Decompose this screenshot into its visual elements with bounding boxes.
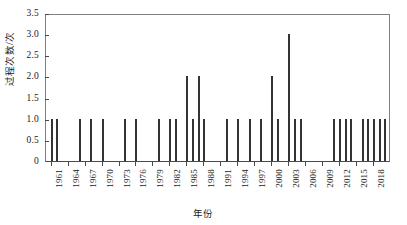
x-tick-label: 2018 [377, 169, 386, 188]
bar [175, 119, 177, 161]
bar [51, 119, 53, 161]
bar [384, 119, 386, 161]
x-axis-title: 年份 [0, 206, 407, 220]
bar [339, 119, 341, 161]
x-tick-mark [237, 162, 238, 166]
x-tick-mark [102, 162, 103, 166]
bar [90, 119, 92, 161]
x-tick-label: 1976 [139, 169, 148, 188]
x-tick-mark [271, 162, 272, 166]
x-tick-mark [220, 162, 221, 166]
plot-area [45, 14, 390, 162]
x-tick-label: 1982 [173, 169, 182, 188]
bar [158, 119, 160, 161]
x-tick-mark [85, 162, 86, 166]
x-tick-label: 1994 [241, 169, 250, 188]
bar [124, 119, 126, 161]
bar [226, 119, 228, 161]
bar [56, 119, 58, 161]
x-tick-mark [186, 162, 187, 166]
bar [192, 119, 194, 161]
y-tick-mark [45, 35, 49, 36]
x-tick-mark [322, 162, 323, 166]
y-tick-mark [45, 120, 49, 121]
x-tick-mark [152, 162, 153, 166]
y-tick-label: 1.0 [27, 115, 39, 125]
x-tick-label: 1979 [156, 169, 165, 188]
y-tick-mark [45, 99, 49, 100]
x-tick-label: 2012 [343, 169, 352, 188]
bar [271, 76, 273, 161]
bar [373, 119, 375, 161]
y-tick-label: 0.5 [27, 136, 39, 146]
x-tick-label: 1964 [72, 169, 81, 188]
x-tick-mark [288, 162, 289, 166]
bar [198, 76, 200, 161]
x-tick-mark [373, 162, 374, 166]
x-tick-label: 2015 [360, 169, 369, 188]
bar [135, 119, 137, 161]
x-tick-mark [135, 162, 136, 166]
bar [300, 119, 302, 161]
x-tick-mark [119, 162, 120, 166]
x-tick-label: 1967 [89, 169, 98, 188]
x-tick-label: 1991 [224, 169, 233, 188]
bar [345, 119, 347, 161]
x-tick-mark [356, 162, 357, 166]
bar [294, 119, 296, 161]
y-tick-mark [45, 77, 49, 78]
bar [367, 119, 369, 161]
x-tick-label: 2000 [275, 169, 284, 188]
bar [186, 76, 188, 161]
y-tick-label: 2.5 [27, 52, 39, 62]
x-tick-mark [169, 162, 170, 166]
bar [288, 34, 290, 161]
x-tick-label: 1970 [106, 169, 115, 188]
bar [79, 119, 81, 161]
bar [379, 119, 381, 161]
x-tick-mark [203, 162, 204, 166]
x-tick-mark [68, 162, 69, 166]
y-tick-label: 1.5 [27, 94, 39, 104]
bar [260, 119, 262, 161]
y-tick-mark [45, 56, 49, 57]
y-axis-title: 过程次数/次 [2, 19, 16, 99]
y-tick-label: 2.0 [27, 73, 39, 83]
bar [350, 119, 352, 161]
x-tick-label: 1988 [207, 169, 216, 188]
y-tick-mark [45, 141, 49, 142]
bar [237, 119, 239, 161]
x-tick-label: 2006 [309, 169, 318, 188]
bar [169, 119, 171, 161]
bar [362, 119, 364, 161]
y-tick-label: 3.0 [27, 30, 39, 40]
y-tick-label: 0 [34, 157, 39, 167]
chart-figure: 00.51.01.52.02.53.03.5 过程次数/次 年份 1961196… [0, 0, 407, 225]
x-tick-mark [51, 162, 52, 166]
x-tick-mark [339, 162, 340, 166]
bar [249, 119, 251, 161]
x-tick-label: 1961 [55, 169, 64, 188]
x-tick-label: 2009 [326, 169, 335, 188]
x-tick-label: 1973 [123, 169, 132, 188]
bar [102, 119, 104, 161]
x-tick-label: 1985 [190, 169, 199, 188]
x-tick-label: 1997 [258, 169, 267, 188]
y-tick-label: 3.5 [27, 9, 39, 19]
bar [203, 119, 205, 161]
bar [333, 119, 335, 161]
y-tick-mark [45, 14, 49, 15]
bar [277, 119, 279, 161]
x-tick-mark [254, 162, 255, 166]
x-tick-mark [305, 162, 306, 166]
x-tick-label: 2003 [292, 169, 301, 188]
